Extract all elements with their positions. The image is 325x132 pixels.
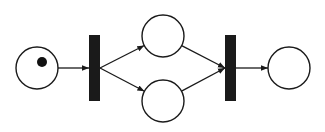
arc-t1-p2 (100, 46, 144, 68)
place-circle (16, 47, 58, 89)
arc-t1-p3 (100, 68, 144, 91)
arc-p3-t2 (182, 68, 225, 91)
place-p3 (142, 80, 184, 122)
place-p4 (268, 47, 310, 89)
petri-net-diagram (0, 0, 325, 132)
place-p2 (142, 15, 184, 57)
place-circle (142, 15, 184, 57)
token-dot (37, 57, 47, 67)
arc-p2-t2 (182, 46, 225, 68)
place-circle (142, 80, 184, 122)
transition-t2 (225, 35, 236, 101)
transition-t1 (89, 35, 100, 101)
place-p1 (16, 47, 58, 89)
place-circle (268, 47, 310, 89)
